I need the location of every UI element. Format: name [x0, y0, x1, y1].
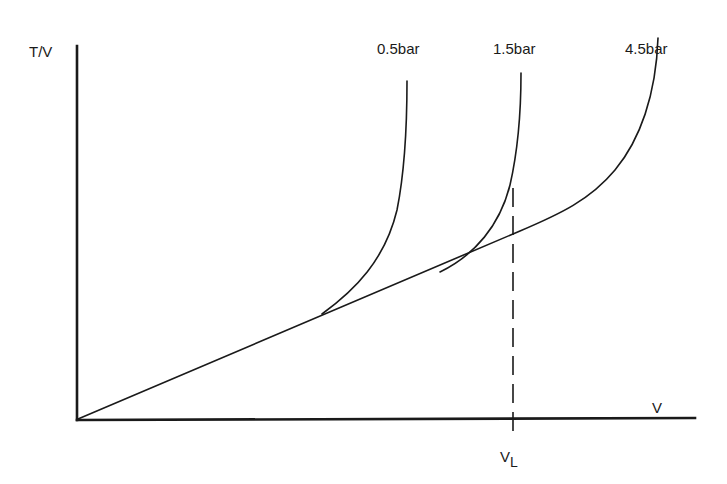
- vl-label: VL: [500, 448, 518, 470]
- curve-0-5-bar: [322, 81, 407, 314]
- curve-1-5-bar: [440, 73, 521, 272]
- curve-4-5-bar: [78, 38, 658, 419]
- x-axis-label: V: [652, 399, 662, 416]
- y-axis-label: T/V: [29, 43, 52, 60]
- curve-label-4-5-bar: 4.5bar: [625, 40, 668, 57]
- vl-label-subscript: L: [510, 454, 518, 470]
- diagram-figure: T/V V 0.5bar 1.5bar 4.5bar VL: [0, 0, 727, 484]
- curve-label-1-5-bar: 1.5bar: [493, 40, 536, 57]
- vl-label-main: V: [500, 448, 510, 465]
- x-axis: [77, 418, 695, 420]
- curve-label-0-5-bar: 0.5bar: [377, 40, 420, 57]
